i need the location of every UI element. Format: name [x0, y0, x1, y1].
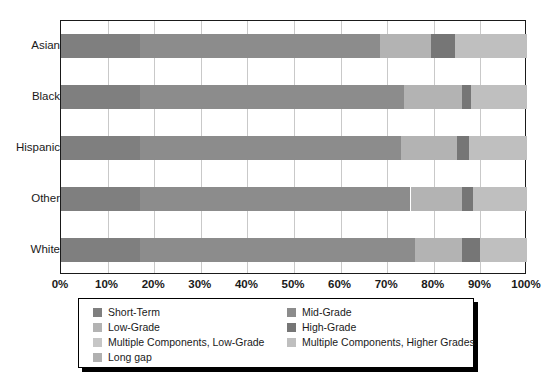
bar-segment: [61, 136, 140, 160]
x-axis-tick-label: 60%: [328, 278, 351, 290]
legend-item[interactable]: Multiple Components, Higher Grades: [287, 335, 475, 349]
bar-segment: [140, 187, 410, 211]
legend-box: Short-TermLow-GradeMultiple Components, …: [78, 298, 474, 368]
bar-row-white: [61, 238, 525, 262]
legend-item[interactable]: High-Grade: [287, 320, 356, 334]
x-axis-tick-label: 40%: [235, 278, 258, 290]
legend-swatch-icon: [93, 323, 102, 332]
legend-swatch-icon: [93, 338, 102, 347]
plot-inner: [61, 21, 525, 273]
bar-track: [61, 238, 525, 262]
bar-segment: [457, 136, 469, 160]
y-axis-label-hispanic: Hispanic: [0, 135, 60, 159]
bar-segment: [462, 85, 471, 109]
y-axis-label-other: Other: [0, 186, 60, 210]
bar-segment: [469, 136, 527, 160]
legend-swatch-icon: [93, 308, 102, 317]
y-axis-label-white: White: [0, 237, 60, 261]
stacked-bar-chart: AsianBlackHispanicOtherWhite 0%10%20%30%…: [0, 0, 546, 378]
y-axis-label-black: Black: [0, 84, 60, 108]
legend-label: Multiple Components, Higher Grades: [302, 335, 475, 349]
legend-swatch-icon: [287, 308, 296, 317]
bar-segment: [61, 34, 140, 58]
plot-area: [60, 20, 526, 274]
bar-row-black: [61, 85, 525, 109]
bar-row-hispanic: [61, 136, 525, 160]
legend-item[interactable]: Long gap: [93, 350, 152, 364]
x-axis-tick-label: 70%: [375, 278, 398, 290]
legend-label: Multiple Components, Low-Grade: [108, 335, 264, 349]
bar-segment: [61, 238, 140, 262]
bar-segment: [140, 136, 401, 160]
bar-segment: [380, 34, 431, 58]
bar-segment: [140, 85, 403, 109]
legend-label: Low-Grade: [108, 320, 160, 334]
x-axis-tick-label: 50%: [281, 278, 304, 290]
bar-segment: [415, 238, 462, 262]
x-axis-tick-label: 30%: [188, 278, 211, 290]
bar-segment: [462, 187, 474, 211]
bar-segment: [140, 238, 415, 262]
bar-segment: [411, 187, 462, 211]
bar-segment: [471, 85, 527, 109]
bar-segment: [61, 85, 140, 109]
bar-track: [61, 85, 525, 109]
legend-label: Mid-Grade: [302, 305, 352, 319]
bar-segment: [480, 238, 527, 262]
bar-segment: [61, 187, 140, 211]
x-axis-tick-label: 90%: [468, 278, 491, 290]
bar-segment: [404, 85, 462, 109]
y-axis-label-asian: Asian: [0, 33, 60, 57]
legend-label: Long gap: [108, 350, 152, 364]
x-axis-tick-label: 80%: [421, 278, 444, 290]
bar-segment: [473, 187, 527, 211]
bar-segment: [401, 136, 457, 160]
bar-track: [61, 187, 525, 211]
legend-item[interactable]: Short-Term: [93, 305, 160, 319]
bar-segment: [431, 34, 454, 58]
legend-swatch-icon: [287, 338, 296, 347]
x-axis-tick-label: 0%: [52, 278, 69, 290]
legend-item[interactable]: Multiple Components, Low-Grade: [93, 335, 264, 349]
x-axis-tick-label: 100%: [511, 278, 540, 290]
bar-row-other: [61, 187, 525, 211]
bar-row-asian: [61, 34, 525, 58]
legend-swatch-icon: [287, 323, 296, 332]
x-axis-tick-label: 10%: [95, 278, 118, 290]
bar-segment: [140, 34, 380, 58]
legend-item[interactable]: Low-Grade: [93, 320, 160, 334]
bar-track: [61, 34, 525, 58]
legend-swatch-icon: [93, 353, 102, 362]
bar-track: [61, 136, 525, 160]
legend-item[interactable]: Mid-Grade: [287, 305, 352, 319]
x-axis-tick-label: 20%: [142, 278, 165, 290]
legend-label: Short-Term: [108, 305, 160, 319]
legend-label: High-Grade: [302, 320, 356, 334]
bar-segment: [462, 238, 481, 262]
legend-items: Short-TermLow-GradeMultiple Components, …: [79, 299, 473, 367]
bar-segment: [455, 34, 527, 58]
